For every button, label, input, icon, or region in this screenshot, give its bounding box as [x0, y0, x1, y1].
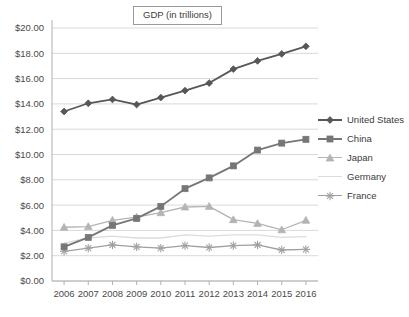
data-point-marker: [109, 96, 116, 103]
legend-label: France: [347, 191, 377, 201]
y-axis-tick-label: $8.00: [20, 174, 44, 185]
legend-line-swatch: [318, 176, 342, 178]
legend-item-germany[interactable]: Germany: [318, 167, 409, 186]
y-axis-tick-label: $20.00: [15, 22, 44, 33]
x-axis-tick-label: 2007: [78, 288, 99, 299]
x-axis-tick-label: 2016: [295, 288, 316, 299]
data-point-marker: [133, 101, 140, 108]
data-point-marker: [182, 186, 188, 192]
gdp-line-chart: $0.00$2.00$4.00$6.00$8.00$10.00$12.00$14…: [0, 0, 409, 317]
y-axis-tick-label: $6.00: [20, 200, 44, 211]
data-point-marker: [157, 244, 165, 252]
data-point-marker: [108, 241, 116, 249]
legend-marker-triangle-icon: [324, 152, 336, 164]
data-point-marker: [303, 43, 310, 50]
y-axis-tick-label: $16.00: [15, 73, 44, 84]
y-axis-tick-label: $0.00: [20, 275, 44, 286]
data-point-marker: [254, 57, 261, 64]
x-axis-tick-label: 2015: [271, 288, 292, 299]
y-axis-tick-label: $4.00: [20, 225, 44, 236]
legend-key-triangle-icon: [318, 152, 342, 164]
data-point-marker: [85, 234, 91, 240]
legend-item-china[interactable]: China: [318, 129, 409, 148]
data-point-marker: [205, 243, 213, 251]
y-axis-tick-label: $12.00: [15, 124, 44, 135]
data-point-marker: [302, 245, 310, 253]
x-axis-tick-label: 2008: [102, 288, 123, 299]
data-point-marker: [279, 140, 285, 146]
data-point-marker: [61, 108, 68, 115]
data-point-marker: [302, 216, 310, 223]
data-point-marker: [230, 216, 238, 223]
legend-key-square-icon: [318, 133, 342, 145]
data-point-marker: [326, 154, 334, 161]
data-point-marker: [182, 87, 189, 94]
data-point-marker: [303, 136, 309, 142]
x-axis-tick-label: 2014: [247, 288, 268, 299]
data-point-marker: [85, 100, 92, 107]
y-axis-tick-label: $18.00: [15, 48, 44, 59]
y-axis-tick-label: $14.00: [15, 98, 44, 109]
data-point-marker: [278, 246, 286, 254]
data-point-marker: [109, 222, 115, 228]
legend-marker-asterisk-icon: [324, 190, 336, 202]
x-axis-tick-label: 2013: [223, 288, 244, 299]
x-axis-tick-label: 2012: [199, 288, 220, 299]
data-point-marker: [255, 147, 261, 153]
data-point-marker: [206, 175, 212, 181]
legend-key-diamond-icon: [318, 114, 342, 126]
legend-key-none-icon: [318, 171, 342, 183]
data-point-marker: [229, 241, 237, 249]
data-point-marker: [157, 94, 164, 101]
data-point-marker: [134, 215, 140, 221]
legend-label: China: [347, 134, 372, 144]
legend-marker-diamond-icon: [324, 114, 336, 126]
data-point-marker: [84, 244, 92, 252]
data-point-marker: [253, 241, 261, 249]
data-point-marker: [158, 203, 164, 209]
data-point-marker: [327, 136, 333, 142]
chart-title: GDP (in trillions): [133, 6, 222, 25]
legend-marker-square-icon: [324, 133, 336, 145]
legend-item-japan[interactable]: Japan: [318, 148, 409, 167]
data-point-marker: [230, 163, 236, 169]
x-axis-tick-label: 2006: [54, 288, 75, 299]
legend-key-asterisk-icon: [318, 190, 342, 202]
legend-label: Germany: [347, 172, 386, 182]
chart-legend: United StatesChinaJapanGermanyFrance: [318, 110, 409, 205]
data-point-marker: [327, 116, 334, 123]
legend-item-united-states[interactable]: United States: [318, 110, 409, 129]
legend-label: United States: [347, 115, 404, 125]
data-point-marker: [61, 244, 67, 250]
x-axis-tick-label: 2011: [175, 288, 195, 299]
data-point-marker: [132, 243, 140, 251]
legend-item-france[interactable]: France: [318, 186, 409, 205]
data-point-marker: [278, 51, 285, 58]
x-axis-tick-label: 2009: [126, 288, 147, 299]
y-axis-tick-label: $2.00: [20, 250, 44, 261]
legend-label: Japan: [347, 153, 373, 163]
x-axis-tick-label: 2010: [150, 288, 171, 299]
data-point-marker: [326, 191, 334, 199]
y-axis-tick-label: $10.00: [15, 149, 44, 160]
data-point-marker: [181, 241, 189, 249]
